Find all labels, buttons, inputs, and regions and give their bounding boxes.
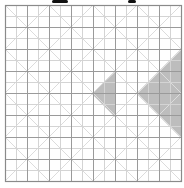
small-triangle — [92, 72, 115, 117]
title-fragment — [128, 0, 136, 3]
cut-off-title — [52, 0, 136, 3]
diagonal-line — [0, 5, 49, 188]
grid-diagram — [0, 0, 184, 188]
diagonal-line — [0, 5, 93, 188]
diagonal-line — [0, 5, 5, 188]
diagonal-line — [0, 5, 49, 188]
diagonal-line — [0, 5, 93, 188]
diagonal-line — [0, 5, 5, 188]
title-fragment — [52, 0, 68, 3]
diagram-canvas — [0, 0, 184, 188]
